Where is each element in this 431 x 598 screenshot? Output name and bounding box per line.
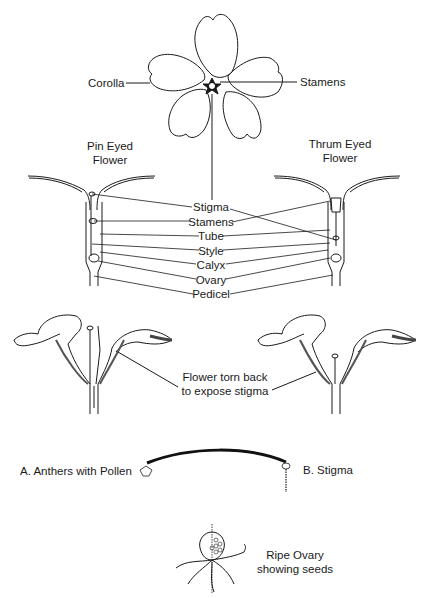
torn-flower-label: Flower torn back to expose stigma <box>170 370 280 398</box>
torn-flower-line1: Flower torn back <box>170 370 280 384</box>
part-label-ovary: Ovary <box>181 273 241 288</box>
top-flower-illustration <box>126 14 297 200</box>
torn-flower-line2: to expose stigma <box>170 384 280 398</box>
part-label-tube: Tube <box>181 229 241 244</box>
anthers-label: A. Anthers with Pollen <box>20 464 132 478</box>
ripe-ovary-line2: showing seeds <box>255 562 335 576</box>
part-label-stigma: Stigma <box>181 200 241 215</box>
part-label-style: Style <box>181 244 241 259</box>
ripe-ovary-illustration <box>176 524 246 594</box>
stigma-b-label: B. Stigma <box>303 463 353 477</box>
parts-label-stack: Stigma Stamens Tube Style Calyx Ovary Pe… <box>181 200 241 302</box>
pin-eyed-label: Pin Eyed Flower <box>60 139 160 167</box>
part-label-pedicel: Pedicel <box>181 287 241 302</box>
ripe-ovary-line1: Ripe Ovary <box>255 548 335 562</box>
pin-eyed-line2: Flower <box>60 153 160 167</box>
thrum-eyed-line1: Thrum Eyed <box>290 137 390 151</box>
torn-flower-right <box>258 315 416 414</box>
pollination-arc <box>140 450 290 492</box>
pin-eyed-line1: Pin Eyed <box>60 139 160 153</box>
part-label-stamens: Stamens <box>181 215 241 230</box>
thrum-eyed-label: Thrum Eyed Flower <box>290 137 390 165</box>
torn-flower-left <box>14 315 178 414</box>
corolla-label: Corolla <box>88 76 124 90</box>
thrum-eyed-cross-section <box>274 176 400 286</box>
pin-eyed-cross-section <box>28 176 155 286</box>
thrum-eyed-line2: Flower <box>290 151 390 165</box>
stamens-top-label: Stamens <box>300 75 345 89</box>
part-label-calyx: Calyx <box>181 258 241 273</box>
ripe-ovary-label: Ripe Ovary showing seeds <box>255 548 335 576</box>
